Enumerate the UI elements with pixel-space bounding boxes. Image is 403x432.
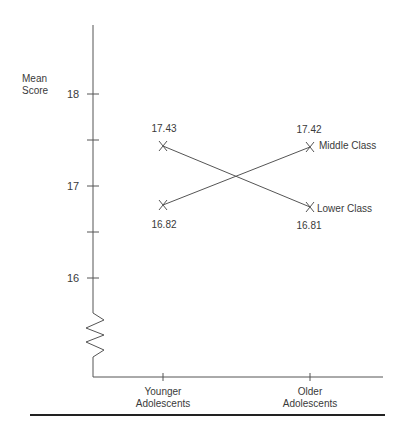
y-axis: [86, 25, 383, 377]
marker-x-icon: [306, 202, 314, 212]
y-axis-label-line2: Score: [22, 85, 48, 97]
xtick-label-younger-line2: Adolescents: [136, 398, 190, 410]
xtick-label-younger-line1: Younger: [145, 386, 182, 398]
ytick-label-17: 17: [67, 180, 79, 192]
value-label-older-middle: 17.42: [296, 124, 321, 136]
xtick-label-older-line1: Older: [298, 386, 322, 398]
chart-canvas: [0, 0, 403, 432]
y-axis-label-line1: Mean: [22, 73, 47, 85]
series-label-lower-class: Lower Class: [317, 203, 372, 215]
marker-x-icon: [159, 200, 167, 210]
ytick-label-16: 16: [67, 272, 79, 284]
value-label-younger-lower: 17.43: [151, 123, 176, 135]
value-label-older-lower: 16.81: [296, 220, 321, 232]
series-label-middle-class: Middle Class: [319, 140, 376, 152]
ytick-label-18: 18: [67, 88, 79, 100]
value-label-younger-middle: 16.82: [151, 219, 176, 231]
series-line-middle-class: [163, 147, 310, 205]
marker-x-icon: [159, 141, 167, 151]
marker-x-icon: [306, 142, 314, 152]
xtick-label-older-line2: Adolescents: [283, 398, 337, 410]
